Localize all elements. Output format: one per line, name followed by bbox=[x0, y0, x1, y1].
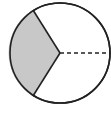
diagram-canvas bbox=[0, 0, 111, 125]
circle-diagram bbox=[0, 0, 111, 125]
